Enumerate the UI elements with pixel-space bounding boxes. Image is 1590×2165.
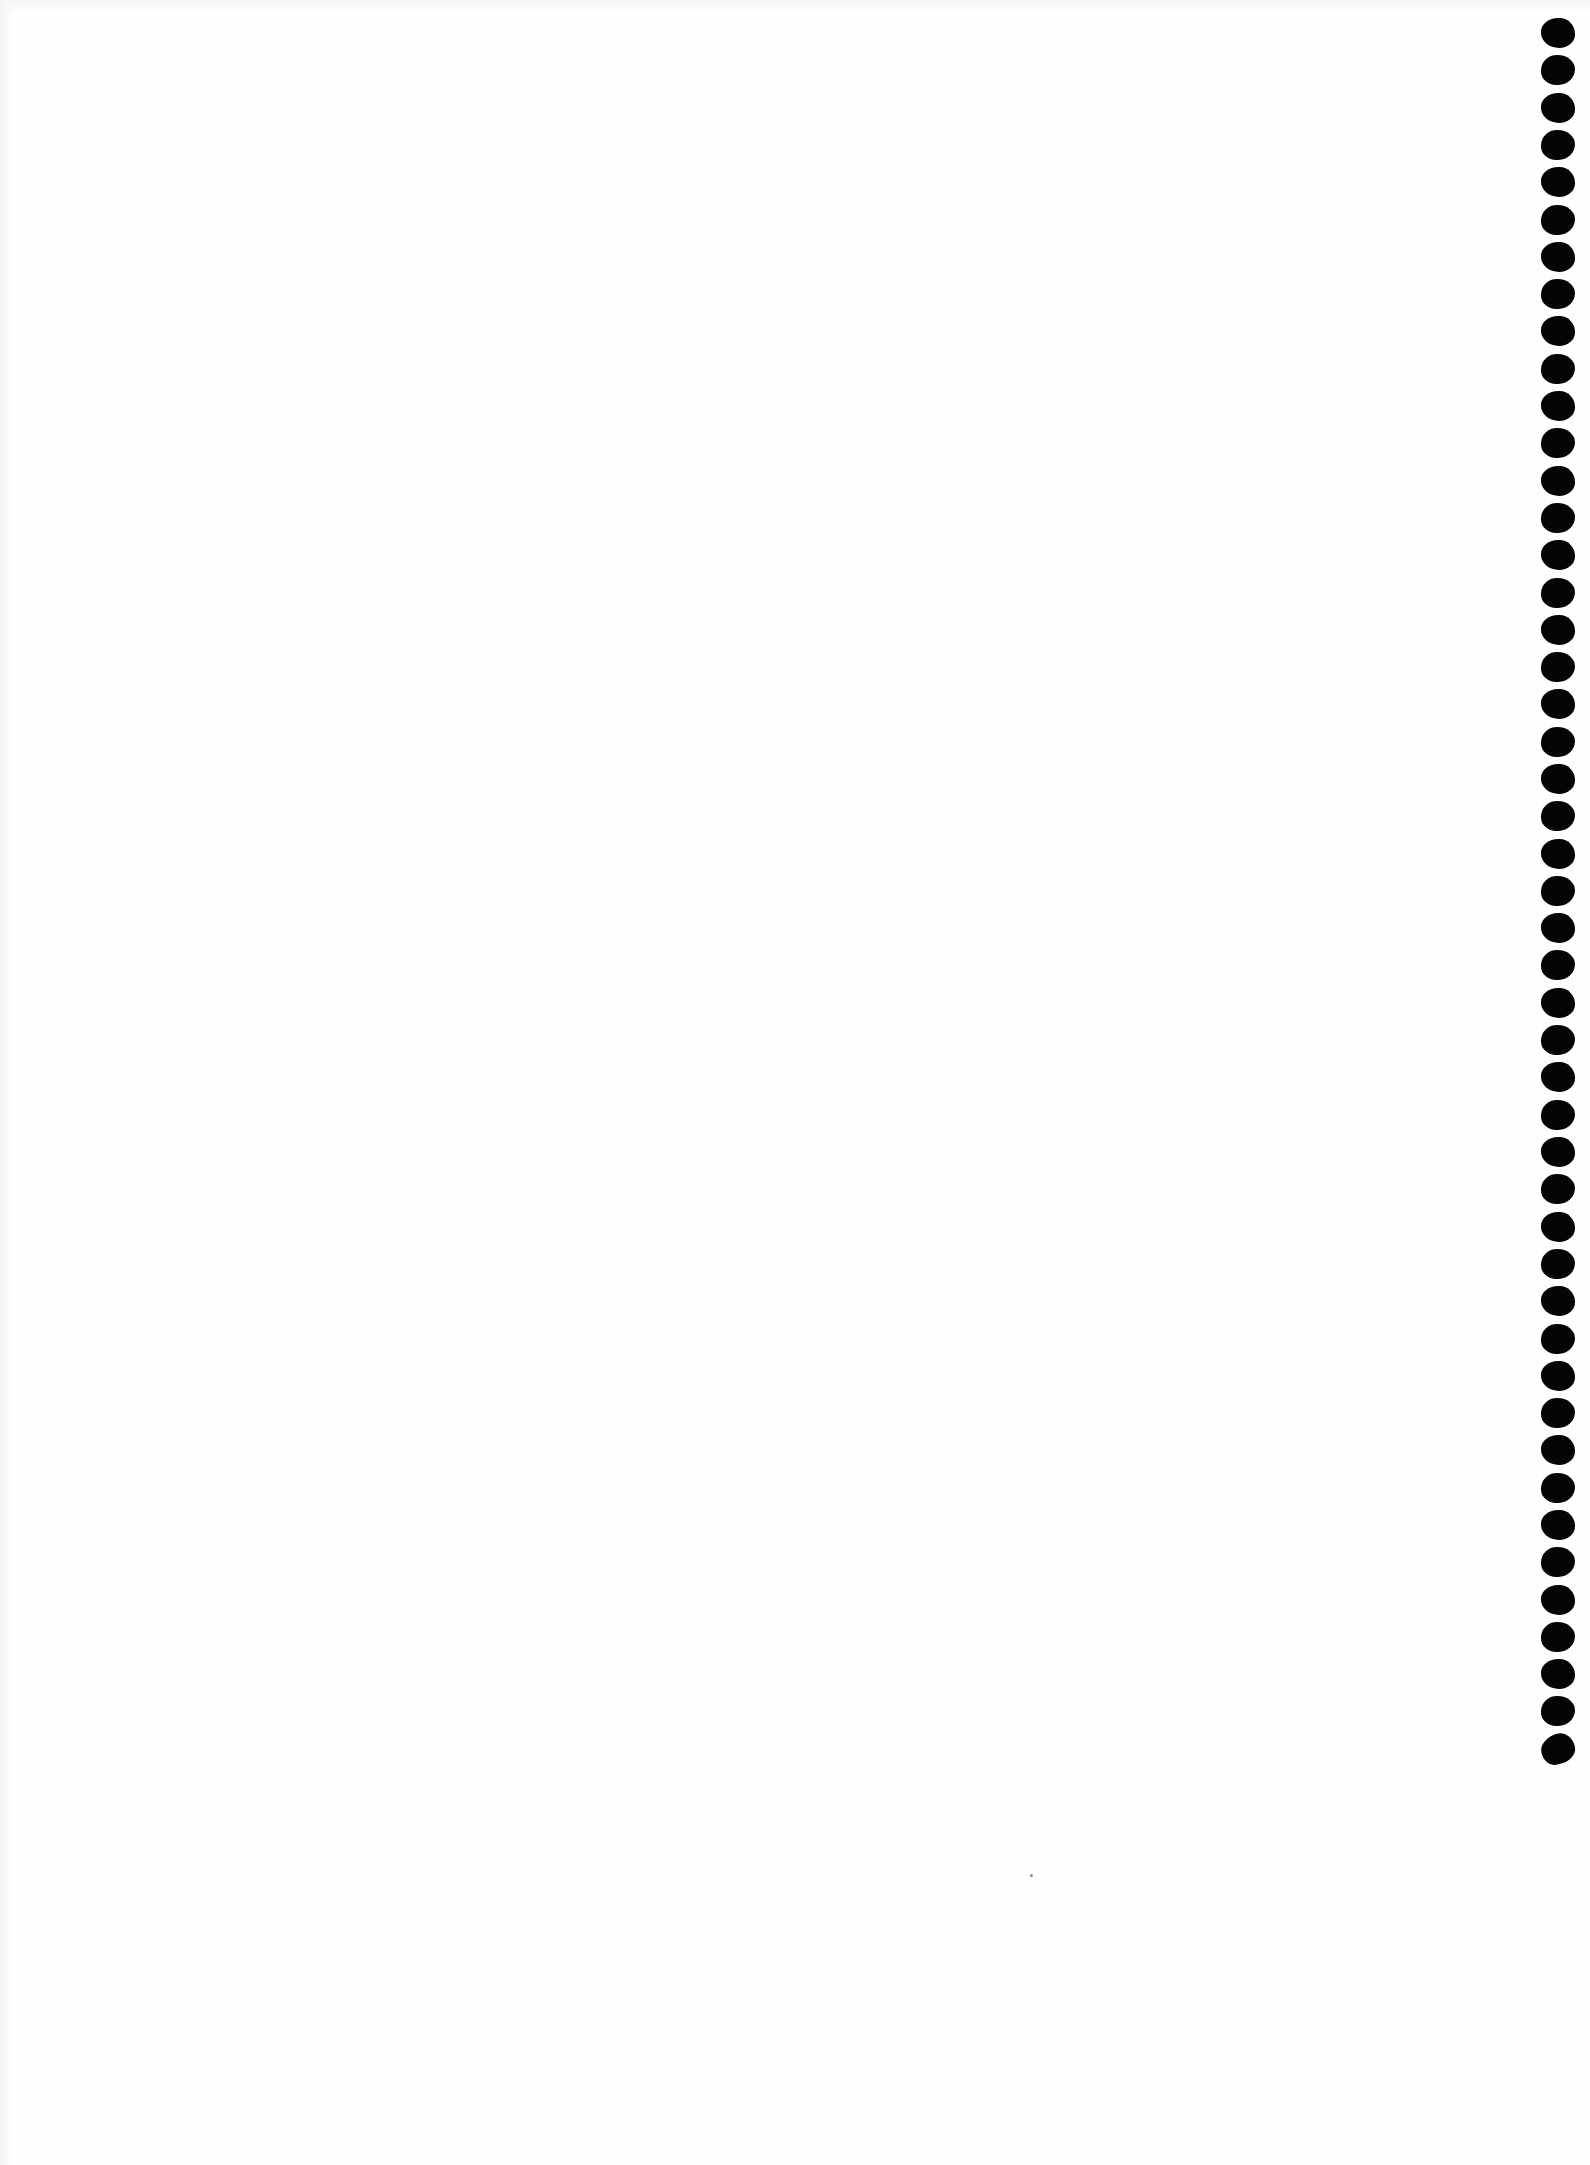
punch-hole bbox=[1541, 503, 1575, 533]
punch-hole bbox=[1541, 988, 1575, 1018]
punch-hole bbox=[1541, 578, 1575, 608]
punch-hole bbox=[1541, 1547, 1575, 1577]
punch-hole bbox=[1541, 205, 1575, 235]
punch-hole bbox=[1541, 167, 1575, 197]
punch-hole bbox=[1541, 1622, 1575, 1652]
punch-hole bbox=[1541, 1174, 1575, 1204]
punch-hole bbox=[1541, 1212, 1575, 1242]
punch-hole bbox=[1541, 1585, 1575, 1615]
punch-hole bbox=[1541, 1361, 1575, 1391]
punch-hole bbox=[1541, 1510, 1575, 1540]
punch-hole bbox=[1541, 1473, 1575, 1503]
scan-left-edge-shadow bbox=[0, 0, 12, 2165]
punch-hole bbox=[1541, 354, 1575, 384]
punch-hole bbox=[1541, 1249, 1575, 1279]
punch-hole bbox=[1541, 913, 1575, 943]
punch-hole bbox=[1541, 55, 1575, 85]
punch-hole bbox=[1541, 540, 1575, 570]
punch-hole bbox=[1541, 1286, 1575, 1316]
punch-hole bbox=[1541, 93, 1575, 123]
punch-hole bbox=[1541, 242, 1575, 272]
punch-hole bbox=[1541, 130, 1575, 160]
punch-hole bbox=[1541, 1659, 1575, 1689]
punch-hole bbox=[1541, 18, 1575, 48]
punch-hole bbox=[1541, 1435, 1575, 1465]
punch-hole bbox=[1541, 279, 1575, 309]
dust-speck bbox=[1030, 1874, 1033, 1877]
punch-hole bbox=[1541, 801, 1575, 831]
punch-hole bbox=[1541, 1324, 1575, 1354]
punch-hole bbox=[1541, 466, 1575, 496]
punch-hole-column bbox=[1541, 0, 1581, 2165]
punch-hole bbox=[1541, 876, 1575, 906]
punch-hole bbox=[1541, 316, 1575, 346]
scan-top-edge-shadow bbox=[0, 0, 1590, 14]
punch-hole bbox=[1541, 1137, 1575, 1167]
punch-hole bbox=[1541, 1062, 1575, 1092]
punch-hole bbox=[1541, 689, 1575, 719]
punch-hole bbox=[1541, 1025, 1575, 1055]
punch-hole bbox=[1541, 950, 1575, 980]
punch-hole bbox=[1541, 391, 1575, 421]
punch-hole bbox=[1541, 1696, 1575, 1726]
punch-hole bbox=[1541, 1398, 1575, 1428]
punch-hole bbox=[1541, 727, 1575, 757]
punch-hole bbox=[1541, 615, 1575, 645]
blank-document-page bbox=[0, 0, 1590, 2165]
punch-hole bbox=[1541, 839, 1575, 869]
punch-hole bbox=[1541, 652, 1575, 682]
punch-hole bbox=[1538, 1731, 1577, 1767]
punch-hole bbox=[1541, 1100, 1575, 1130]
punch-hole bbox=[1541, 428, 1575, 458]
punch-hole bbox=[1541, 764, 1575, 794]
